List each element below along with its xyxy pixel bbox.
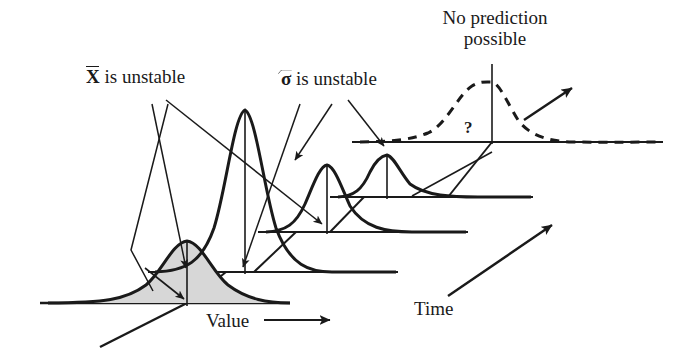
depth-connectors [187,142,492,303]
label-no-prediction-possible: No prediction possible [400,7,590,50]
depth-connector-4 [448,142,492,197]
distribution-5-future-unknown [360,64,660,144]
sigma-leader-left [243,104,300,267]
sigma-label-text: is unstable [291,68,377,89]
distribution-3-curve [266,165,466,232]
distribution-3 [266,165,466,234]
label-time-axis: Time [414,298,453,319]
no-prediction-line1: No prediction [400,7,590,28]
label-xbar-unstable: X is unstable [86,66,185,87]
xbar-label-text: is unstable [100,66,186,87]
label-question-mark: ? [464,118,473,137]
distribution-4 [338,155,531,199]
leader-to-distribution-3 [166,100,322,224]
baselines [40,142,663,303]
distribution-1-front [48,241,290,306]
sigma-leader-right [295,104,332,160]
xbar-symbol: X [86,66,100,87]
sigma-symbol-wrap: σ [281,66,291,89]
label-value-axis: Value [206,310,249,331]
time-axis-arrow [448,225,552,296]
diagram-canvas [0,0,677,364]
process-behavior-diagram: X is unstable σ is unstable No predictio… [0,0,677,364]
distribution-5-dashed-curve [360,82,660,142]
sigma-symbol: σ [281,68,291,89]
right-leader-lines [166,100,492,224]
sigma-leader-lines [243,104,332,267]
depth-axis-line [100,303,187,347]
distribution-4-curve [338,155,531,197]
xbar-leader-right [152,104,186,268]
no-prediction-line2: possible [400,28,590,49]
future-trend-arrow [524,88,572,120]
leader-to-distribution-4 [348,100,384,146]
label-sigma-unstable: σ is unstable [281,66,377,89]
leader-from-dashed-curve [412,152,492,196]
